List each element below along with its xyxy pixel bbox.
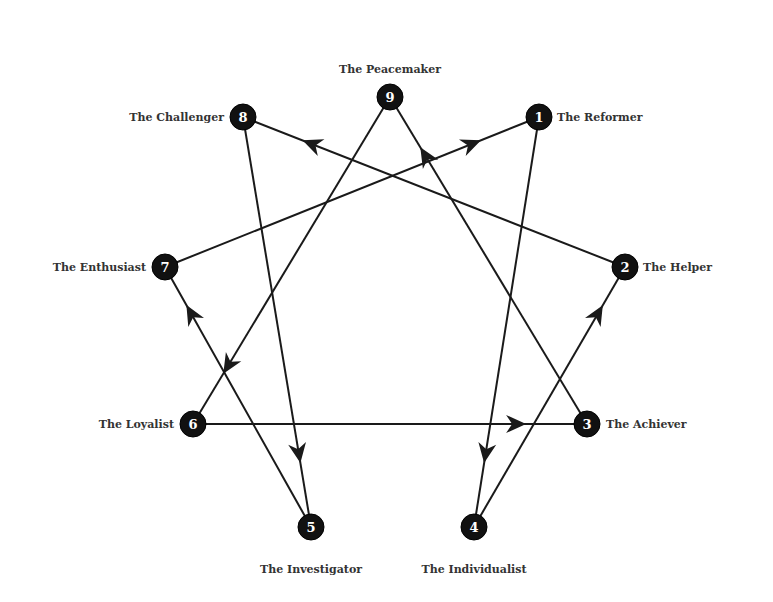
node-5: 5The Investigator [260,514,362,576]
edge-7-to-1 [165,117,539,267]
node-number: 9 [385,90,394,105]
edge-1-to-4 [474,117,539,527]
node-number: 5 [306,520,315,535]
node-label: The Achiever [606,418,687,431]
node-number: 8 [238,110,247,125]
arrowhead-icon [585,305,603,327]
node-label: The Enthusiast [53,261,147,274]
edge-9-to-6 [193,97,390,424]
arrowhead-icon [223,352,241,374]
node-7: 7The Enthusiast [53,254,178,280]
node-3: 3The Achiever [574,411,687,437]
arrowhead-icon [420,147,438,169]
node-label: The Helper [643,261,712,274]
node-number: 4 [469,520,478,535]
nodes-layer: 9The Peacemaker1The Reformer2The Helper3… [53,63,713,576]
node-label: The Reformer [557,111,643,124]
node-9: 9The Peacemaker [339,63,441,110]
node-4: 4The Individualist [421,514,527,576]
node-label: The Individualist [421,563,527,576]
node-number: 3 [582,417,591,432]
node-label: The Loyalist [99,418,175,431]
node-label: The Peacemaker [339,63,441,76]
node-label: The Investigator [260,563,362,576]
node-label: The Challenger [129,111,224,124]
edge-3-to-9 [390,97,587,424]
node-number: 2 [620,260,629,275]
node-number: 7 [160,260,169,275]
node-8: 8The Challenger [129,104,256,130]
node-1: 1The Reformer [526,104,643,130]
node-2: 2The Helper [612,254,712,280]
edges-layer [165,97,625,527]
arrowhead-icon [186,305,204,327]
node-6: 6The Loyalist [99,411,206,437]
enneagram-diagram: 9The Peacemaker1The Reformer2The Helper3… [0,0,773,602]
node-number: 1 [534,110,543,125]
node-number: 6 [188,417,197,432]
